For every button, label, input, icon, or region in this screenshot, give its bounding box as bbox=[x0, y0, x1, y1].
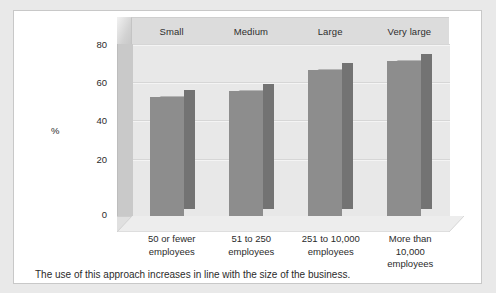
chart-floor bbox=[117, 216, 464, 232]
y-axis: 80 60 40 20 0 bbox=[73, 44, 107, 216]
bar-large bbox=[308, 63, 354, 216]
category-label-large-line1: 251 to 10,000 bbox=[291, 233, 371, 246]
y-axis-title: % bbox=[51, 125, 59, 136]
category-label-medium-line1: 51 to 250 bbox=[212, 233, 292, 246]
gridline-80-highlight bbox=[133, 45, 450, 46]
category-label-very-large-line2: 10,000 bbox=[371, 246, 451, 259]
bar-chart: Small Medium Large Very large bbox=[109, 17, 464, 232]
figure-caption: The use of this approach increases in li… bbox=[35, 269, 455, 280]
bar-very-large-side bbox=[421, 54, 432, 209]
bar-medium-side bbox=[263, 84, 274, 209]
y-tick-0: 0 bbox=[77, 209, 107, 220]
bar-very-large bbox=[387, 54, 433, 216]
bar-large-front bbox=[308, 70, 342, 216]
category-label-medium-line2: employees bbox=[212, 246, 292, 259]
category-header-small: Small bbox=[132, 18, 211, 44]
bar-small bbox=[150, 90, 196, 216]
bar-small-front bbox=[150, 97, 184, 216]
category-header-band: Small Medium Large Very large bbox=[131, 17, 449, 44]
y-tick-20: 20 bbox=[77, 154, 107, 165]
plot-background bbox=[132, 44, 450, 216]
y-tick-80: 80 bbox=[77, 39, 107, 50]
bar-very-large-front bbox=[387, 61, 421, 216]
category-header-very-large: Very large bbox=[370, 18, 449, 44]
bar-small-side bbox=[184, 90, 195, 209]
figure-panel: Small Medium Large Very large bbox=[13, 10, 482, 284]
bar-medium-front bbox=[229, 91, 263, 216]
bar-medium bbox=[229, 84, 275, 216]
bar-large-side bbox=[342, 63, 353, 209]
y-tick-60: 60 bbox=[77, 77, 107, 88]
category-header-medium: Medium bbox=[211, 18, 290, 44]
category-header-large: Large bbox=[291, 18, 370, 44]
chart-left-wall-edge bbox=[117, 44, 118, 216]
category-label-small-line1: 50 or fewer bbox=[132, 233, 212, 246]
category-label-large-line2: employees bbox=[291, 246, 371, 259]
category-label-very-large-line1: More than bbox=[371, 233, 451, 246]
category-label-small-line2: employees bbox=[132, 246, 212, 259]
chart-left-wall bbox=[117, 44, 132, 216]
y-tick-40: 40 bbox=[77, 115, 107, 126]
